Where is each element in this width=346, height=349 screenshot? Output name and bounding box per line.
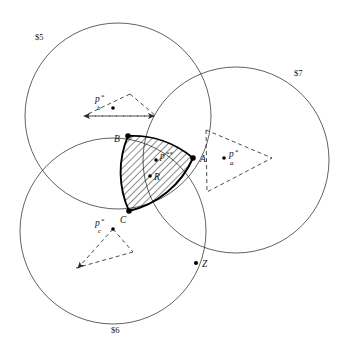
point-label-r: R (153, 172, 160, 182)
circle-label-s5: $5 (35, 32, 44, 42)
p-star-c-star: * (101, 217, 105, 225)
p-star-b-subscript: b (97, 104, 101, 112)
point-dot-p-double-star (154, 158, 158, 162)
point-label-p-star-c: p * c (94, 217, 105, 235)
circle-label-s7: $7 (294, 68, 303, 78)
geometry-diagram: $5 $7 $6 B A C p ** R p * a p * b p * (0, 0, 346, 349)
point-dot-z (194, 261, 198, 265)
point-dot-p-star-c (111, 227, 115, 231)
figure-container: $5 $7 $6 B A C p ** R p * a p * b p * (0, 0, 346, 349)
p-star-c-subscript: c (98, 227, 102, 235)
point-label-p-star-a: p * a (228, 148, 239, 167)
p-double-star-stars: ** (166, 150, 174, 158)
dashed-triangle-c (76, 229, 133, 268)
vertex-label-b: B (114, 134, 120, 144)
vertex-dot-b (125, 133, 131, 139)
p-star-b-star: * (101, 93, 105, 101)
circle-label-s6: $6 (111, 325, 120, 335)
p-star-a-base: p (228, 149, 234, 159)
p-star-a-star: * (235, 148, 239, 156)
vertex-label-a: A (199, 154, 206, 164)
p-double-star-base: p (159, 151, 165, 161)
point-label-z: Z (202, 259, 208, 269)
vertex-dot-c (126, 208, 132, 214)
point-dot-p-star-a (222, 156, 226, 160)
point-label-p-star-b: p * b (94, 93, 105, 112)
point-dot-p-star-b (111, 106, 115, 110)
point-dot-r (148, 174, 152, 178)
dashed-triangle-a (206, 130, 272, 192)
vertex-label-c: C (120, 215, 127, 225)
p-star-b-base: p (94, 94, 100, 104)
vertex-dot-a (190, 155, 196, 161)
p-star-a-subscript: a (230, 159, 234, 167)
